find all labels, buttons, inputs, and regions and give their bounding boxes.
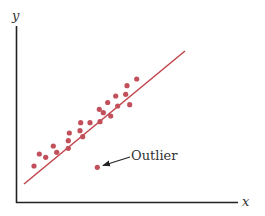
data-point [108,113,113,118]
data-point [87,120,92,125]
data-points [31,76,139,169]
data-point [54,150,59,155]
trend-line [24,51,185,184]
outlier-point [95,165,100,170]
data-point [66,146,71,151]
data-point [66,138,71,143]
data-point [134,76,139,81]
data-point [124,83,129,88]
data-point [113,93,118,98]
data-point [123,92,128,97]
outlier-label: Outlier [131,148,178,163]
data-point [43,155,48,160]
y-axis-label: y [11,8,20,23]
data-point [77,128,82,133]
data-point [105,100,110,105]
data-point [97,107,102,112]
data-point [37,151,42,156]
data-point [115,103,120,108]
data-point [127,102,132,107]
outlier-arrow-icon [103,157,130,166]
data-point [67,130,72,135]
x-axis-label: x [242,194,250,209]
data-point [51,143,56,148]
data-point [31,163,36,168]
scatter-chart: y x Outlier [0,0,265,216]
data-point [97,119,102,124]
data-point [80,134,85,139]
data-point [101,110,106,115]
data-point [78,120,83,125]
